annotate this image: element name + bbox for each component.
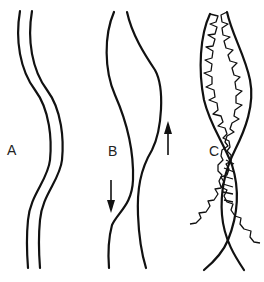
arrow-down-icon <box>107 180 115 213</box>
arrow-up-icon <box>164 121 172 155</box>
panel-b-strand-right <box>127 12 161 268</box>
panel-b-strand-left <box>107 12 133 268</box>
panel-b: B <box>107 12 172 268</box>
panel-c-strand-right-edge <box>222 12 252 270</box>
panel-a-strand-left <box>18 11 51 268</box>
panel-a-strand-right <box>30 11 63 268</box>
panel-c-label: C <box>209 143 219 159</box>
panel-c: C <box>190 12 260 270</box>
panel-a: A <box>7 11 63 268</box>
panel-a-label: A <box>7 142 17 158</box>
panel-b-label: B <box>108 143 117 159</box>
figure-canvas: A B C <box>0 0 264 282</box>
